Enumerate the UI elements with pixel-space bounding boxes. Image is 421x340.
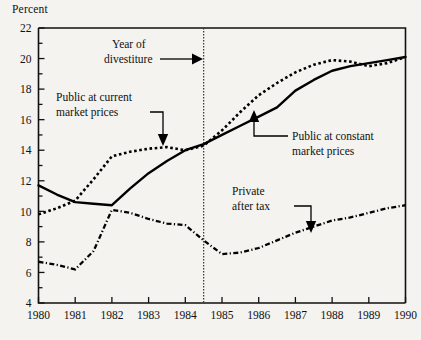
y-tick-label: 4: [26, 297, 32, 309]
y-tick-label: 20: [20, 53, 32, 65]
annotation-public-current-leader: [150, 112, 163, 134]
x-tick-labels-group: 1980198119821983198419851986198719881989…: [27, 309, 417, 321]
x-tick-label: 1982: [100, 309, 123, 321]
y-tick-label: 16: [20, 114, 32, 126]
annotation-divestiture-line2: divestiture: [104, 53, 153, 65]
x-tick-label: 1983: [137, 309, 160, 321]
annotation-public-current-line1: Public at current: [56, 91, 133, 103]
x-tick-label: 1980: [27, 309, 50, 321]
annotation-divestiture: Year of divestiture: [104, 38, 203, 65]
annotation-public-current-arrowhead: [158, 134, 168, 146]
y-tick-label: 6: [26, 267, 32, 279]
annotation-public-constant-line2: market prices: [292, 145, 355, 158]
chart-canvas: 46810121416182022 1980198119821983198419…: [0, 0, 421, 340]
x-tick-label: 1984: [174, 309, 197, 321]
y-tick-label: 10: [20, 206, 32, 218]
x-tick-label: 1981: [64, 309, 87, 321]
annotation-divestiture-arrowhead: [192, 54, 203, 65]
y-tick-label: 18: [20, 83, 32, 95]
annotation-public-current-line2: market prices: [56, 106, 119, 119]
annotation-divestiture-line1: Year of: [112, 38, 146, 50]
y-tick-label: 14: [20, 144, 32, 156]
chart-figure: Percent 46810121416182022 19801981198219…: [0, 0, 421, 340]
x-tick-label: 1988: [321, 309, 344, 321]
y-tick-labels-group: 46810121416182022: [20, 22, 32, 309]
data-series-group: [39, 57, 406, 269]
series-line: [39, 205, 406, 269]
annotation-private-after-tax: Private after tax: [232, 185, 316, 233]
y-tick-label: 8: [26, 236, 32, 248]
annotation-public-constant-line1: Public at constant: [292, 130, 375, 142]
x-tick-label: 1985: [211, 309, 234, 321]
x-tick-label: 1986: [247, 309, 270, 321]
tick-marks-group: [39, 28, 406, 303]
annotation-private-line1: Private: [232, 185, 265, 197]
annotation-private-leader: [294, 206, 311, 221]
axes-group: [39, 28, 406, 303]
annotation-public-constant: Public at constant market prices: [249, 110, 375, 158]
x-tick-label: 1989: [357, 309, 380, 321]
annotation-public-constant-leader: [254, 122, 288, 136]
x-tick-label: 1990: [394, 309, 417, 321]
annotation-private-line2: after tax: [232, 200, 270, 212]
annotation-public-current: Public at current market prices: [56, 91, 168, 146]
y-tick-label: 22: [20, 22, 32, 34]
y-tick-label: 12: [20, 175, 32, 187]
annotation-private-arrowhead: [306, 221, 316, 233]
x-tick-label: 1987: [284, 309, 307, 321]
